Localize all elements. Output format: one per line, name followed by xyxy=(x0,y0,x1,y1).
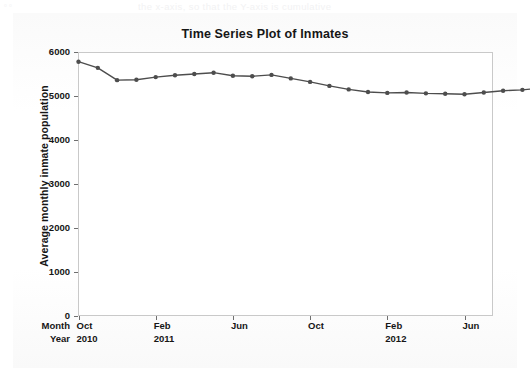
time-series-chart: Time Series Plot of Inmates Average mont… xyxy=(0,0,530,375)
data-point-marker xyxy=(308,80,312,84)
y-tick-label: 1000 xyxy=(26,266,70,277)
x-axis-year-label: 2012 xyxy=(385,333,406,344)
x-axis-year-label: 2010 xyxy=(77,333,98,344)
series-line xyxy=(79,62,530,95)
data-point-marker xyxy=(385,91,389,95)
data-point-marker xyxy=(327,84,331,88)
data-point-marker xyxy=(154,75,158,79)
x-axis-month-label: Feb xyxy=(154,320,171,331)
data-point-marker xyxy=(482,90,486,94)
x-axis-month-label: Jun xyxy=(231,320,248,331)
data-point-marker xyxy=(424,91,428,95)
x-axis-month-label: Oct xyxy=(308,320,324,331)
y-tick-label: 3000 xyxy=(26,178,70,189)
x-axis-year-label: 2011 xyxy=(154,333,175,344)
data-point-marker xyxy=(231,74,235,78)
data-point-marker xyxy=(366,90,370,94)
y-tick-label: 4000 xyxy=(26,134,70,145)
data-point-marker xyxy=(347,87,351,91)
data-point-marker xyxy=(250,74,254,78)
y-tick-label: 2000 xyxy=(26,222,70,233)
data-point-marker xyxy=(192,72,196,76)
y-tick-mark xyxy=(74,316,78,317)
x-axis-month-label: Feb xyxy=(385,320,402,331)
y-tick-label: 5000 xyxy=(26,90,70,101)
data-point-marker xyxy=(404,90,408,94)
data-point-marker xyxy=(211,70,215,74)
x-axis-row-label-year: Year xyxy=(18,333,70,344)
data-point-marker xyxy=(289,76,293,80)
data-point-marker xyxy=(96,66,100,70)
x-axis-month-label: Jun xyxy=(463,320,480,331)
data-point-marker xyxy=(520,88,524,92)
data-point-marker xyxy=(269,73,273,77)
data-point-marker xyxy=(115,78,119,82)
data-point-marker xyxy=(443,92,447,96)
chart-title: Time Series Plot of Inmates xyxy=(0,27,530,41)
data-point-marker xyxy=(173,73,177,77)
data-point-marker xyxy=(501,89,505,93)
x-axis-row-label-month: Month xyxy=(18,320,70,331)
y-tick-label: 6000 xyxy=(26,46,70,57)
data-point-marker xyxy=(134,78,138,82)
data-point-marker xyxy=(76,59,80,63)
series-inmate-population xyxy=(78,52,493,316)
x-axis-month-label: Oct xyxy=(77,320,93,331)
data-point-marker xyxy=(462,92,466,96)
